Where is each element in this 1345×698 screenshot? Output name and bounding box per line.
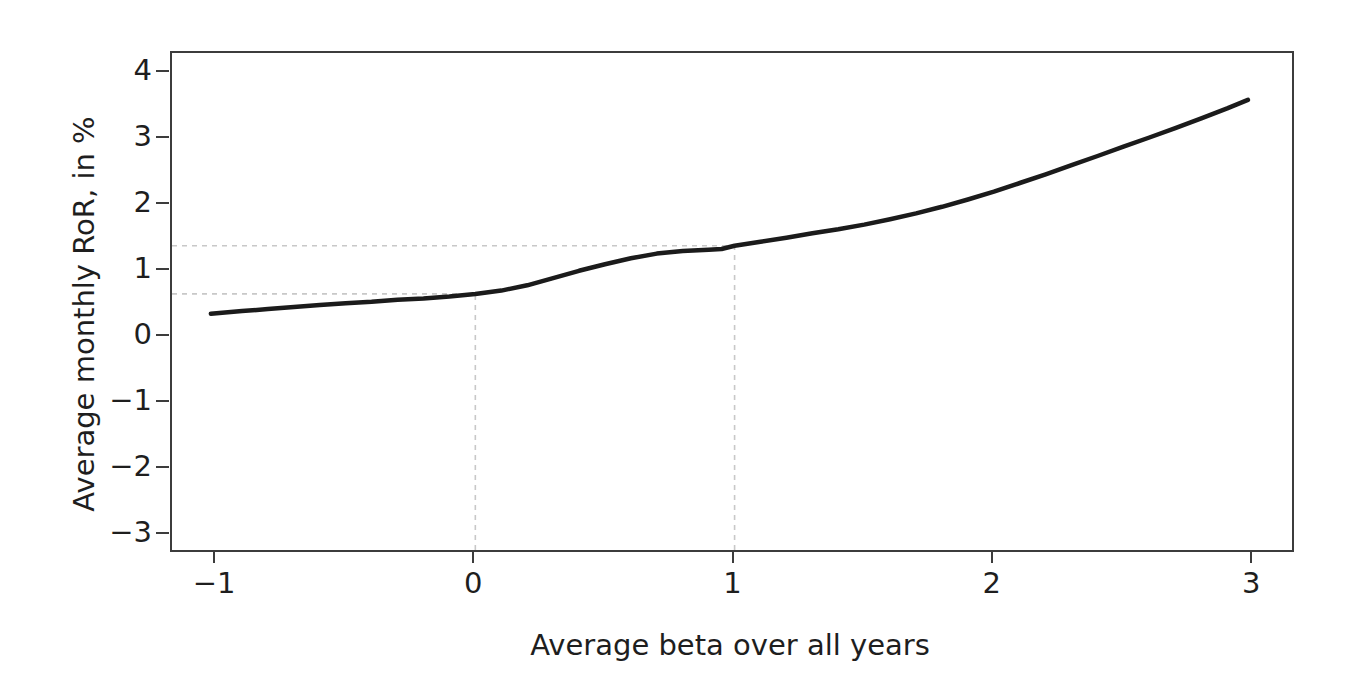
y-tick-mark bbox=[156, 532, 169, 534]
x-axis-title: Average beta over all years bbox=[530, 628, 930, 662]
y-tick-label: 4 bbox=[72, 53, 152, 87]
y-tick-label: 3 bbox=[72, 119, 152, 153]
plot-area bbox=[170, 51, 1294, 552]
reference-dashed-lines bbox=[172, 246, 735, 550]
y-tick-mark bbox=[156, 70, 169, 72]
y-tick-label: −3 bbox=[72, 515, 152, 549]
x-tick-label: 1 bbox=[723, 566, 741, 600]
y-tick-mark bbox=[156, 334, 169, 336]
y-tick-label: 1 bbox=[72, 251, 152, 285]
y-tick-label: −2 bbox=[72, 449, 152, 483]
x-tick-label: 3 bbox=[1242, 566, 1260, 600]
x-tick-label: 0 bbox=[464, 566, 482, 600]
x-tick-label: 2 bbox=[983, 566, 1001, 600]
figure-root: Average monthly RoR, in % Average beta o… bbox=[0, 0, 1345, 698]
y-tick-mark bbox=[156, 268, 169, 270]
y-tick-label: −1 bbox=[72, 383, 152, 417]
y-tick-label: 2 bbox=[72, 185, 152, 219]
y-tick-mark bbox=[156, 466, 169, 468]
y-tick-mark bbox=[156, 202, 169, 204]
y-tick-mark bbox=[156, 136, 169, 138]
y-tick-label: 0 bbox=[72, 317, 152, 351]
data-line bbox=[211, 100, 1248, 314]
y-tick-mark bbox=[156, 400, 169, 402]
x-tick-label: −1 bbox=[193, 566, 236, 600]
line-chart-canvas bbox=[172, 53, 1292, 550]
